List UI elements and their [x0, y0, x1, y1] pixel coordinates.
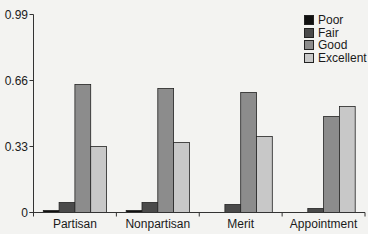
bar-good-merit: [241, 93, 257, 213]
legend-swatch: [304, 28, 314, 38]
bar-fair-nonpartisan: [142, 203, 158, 213]
legend-swatch: [304, 15, 314, 25]
bar-fair-partisan: [59, 203, 75, 213]
x-tick-label-appointment: Appointment: [282, 217, 366, 231]
legend: PoorFairGoodExcellent: [304, 14, 367, 64]
y-tick-label: 0.33: [0, 141, 28, 153]
y-tick-label: 0: [0, 207, 28, 219]
bar-excellent-merit: [257, 137, 273, 213]
legend-label: Excellent: [318, 51, 367, 65]
legend-item-good: Good: [304, 39, 367, 52]
bar-fair-appointment: [308, 209, 324, 213]
bar-fair-merit: [225, 205, 241, 213]
bar-good-partisan: [75, 85, 91, 213]
x-tick-label-partisan: Partisan: [33, 217, 117, 231]
bar-excellent-appointment: [339, 107, 355, 213]
legend-item-poor: Poor: [304, 14, 367, 27]
legend-swatch: [304, 53, 314, 63]
x-tick-label-nonpartisan: Nonpartisan: [116, 217, 200, 231]
bar-excellent-partisan: [91, 147, 107, 213]
legend-item-excellent: Excellent: [304, 52, 367, 65]
bar-good-appointment: [324, 117, 340, 213]
bar-good-nonpartisan: [158, 89, 174, 213]
y-tick-label: 0.99: [0, 9, 28, 21]
x-tick-label-merit: Merit: [199, 217, 283, 231]
bar-chart: 00.330.660.99 PartisanNonpartisanMeritAp…: [0, 0, 368, 234]
legend-swatch: [304, 40, 314, 50]
bar-excellent-nonpartisan: [174, 143, 190, 213]
legend-item-fair: Fair: [304, 27, 367, 40]
y-tick-label: 0.66: [0, 75, 28, 87]
